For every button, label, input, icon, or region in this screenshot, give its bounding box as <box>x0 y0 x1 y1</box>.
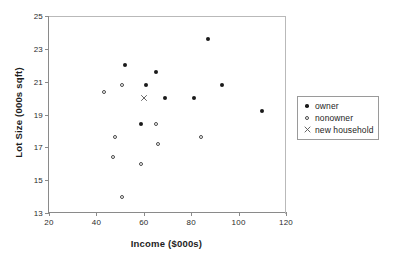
legend-item-label: owner <box>315 101 339 111</box>
scatter-plot-figure: 13151719212325 20406080100120 Lot Size (… <box>0 0 403 266</box>
y-tick-mark <box>45 49 49 50</box>
legend-item-nonowner[interactable]: nonowner <box>302 112 373 124</box>
legend-item-label: new household <box>315 125 373 135</box>
data-point-owner <box>163 96 167 100</box>
y-tick-mark <box>45 115 49 116</box>
data-point-nonowner <box>199 135 203 139</box>
plot-area: 13151719212325 20406080100120 <box>48 16 285 213</box>
x-tick-label: 120 <box>279 218 293 227</box>
y-tick-mark <box>45 180 49 181</box>
data-point-owner <box>260 109 264 113</box>
data-point-nonowner <box>102 90 106 94</box>
cross-x-icon <box>302 126 312 134</box>
x-tick-mark <box>286 212 287 216</box>
x-tick-mark <box>96 212 97 216</box>
data-point-nonowner <box>120 195 124 199</box>
legend: ownernonownernew household <box>297 96 379 140</box>
y-tick-label: 23 <box>34 44 43 53</box>
y-tick-label: 25 <box>34 12 43 21</box>
x-tick-mark <box>49 212 50 216</box>
x-tick-label: 100 <box>232 218 246 227</box>
y-axis-title: Lot Size (000s sqft) <box>13 23 24 203</box>
data-point-owner <box>192 96 196 100</box>
y-tick-label: 21 <box>34 77 43 86</box>
x-tick-label: 20 <box>44 218 53 227</box>
y-tick-label: 15 <box>34 176 43 185</box>
data-point-nonowner <box>139 162 143 166</box>
data-point-owner <box>144 83 148 87</box>
data-point-new-household <box>140 95 147 102</box>
y-tick-mark <box>45 82 49 83</box>
data-point-nonowner <box>111 155 115 159</box>
data-point-owner <box>154 70 158 74</box>
x-tick-mark <box>191 212 192 216</box>
data-point-nonowner <box>113 135 117 139</box>
x-tick-label: 80 <box>187 218 196 227</box>
y-tick-label: 13 <box>34 209 43 218</box>
filled-circle-icon <box>302 104 312 108</box>
x-tick-label: 60 <box>139 218 148 227</box>
plot-frame-right <box>285 16 286 214</box>
x-axis-title: Income ($000s) <box>48 238 285 249</box>
legend-item-new-household[interactable]: new household <box>302 124 373 136</box>
y-tick-label: 17 <box>34 143 43 152</box>
data-point-nonowner <box>154 122 158 126</box>
data-point-nonowner <box>156 142 160 146</box>
data-point-nonowner <box>120 83 124 87</box>
x-tick-label: 40 <box>92 218 101 227</box>
open-circle-icon <box>302 116 312 120</box>
y-tick-mark <box>45 147 49 148</box>
data-point-owner <box>220 83 224 87</box>
data-point-owner <box>123 63 127 67</box>
data-point-owner <box>139 122 143 126</box>
x-tick-mark <box>239 212 240 216</box>
y-tick-label: 19 <box>34 110 43 119</box>
y-tick-mark <box>45 16 49 17</box>
legend-item-owner[interactable]: owner <box>302 100 373 112</box>
x-tick-mark <box>144 212 145 216</box>
legend-item-label: nonowner <box>315 113 353 123</box>
data-point-owner <box>206 37 210 41</box>
